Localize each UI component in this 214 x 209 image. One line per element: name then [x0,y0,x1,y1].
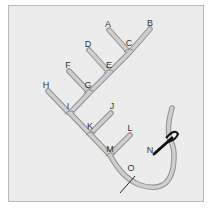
label-j: J [110,101,115,111]
label-d: D [85,39,92,49]
label-m: M [106,144,114,154]
label-h: H [43,80,50,90]
label-n: N [147,145,154,155]
label-b: B [147,18,153,28]
label-o: O [127,163,134,173]
branching-tube-diagram: ABCDEFGHIJKLMNO [0,0,214,209]
label-k: K [87,121,93,131]
label-e: E [106,60,112,70]
label-i: I [67,101,70,111]
label-l: L [127,123,132,133]
label-a: A [105,19,111,29]
label-c: C [126,38,133,48]
label-g: G [84,80,91,90]
label-f: F [65,60,71,70]
